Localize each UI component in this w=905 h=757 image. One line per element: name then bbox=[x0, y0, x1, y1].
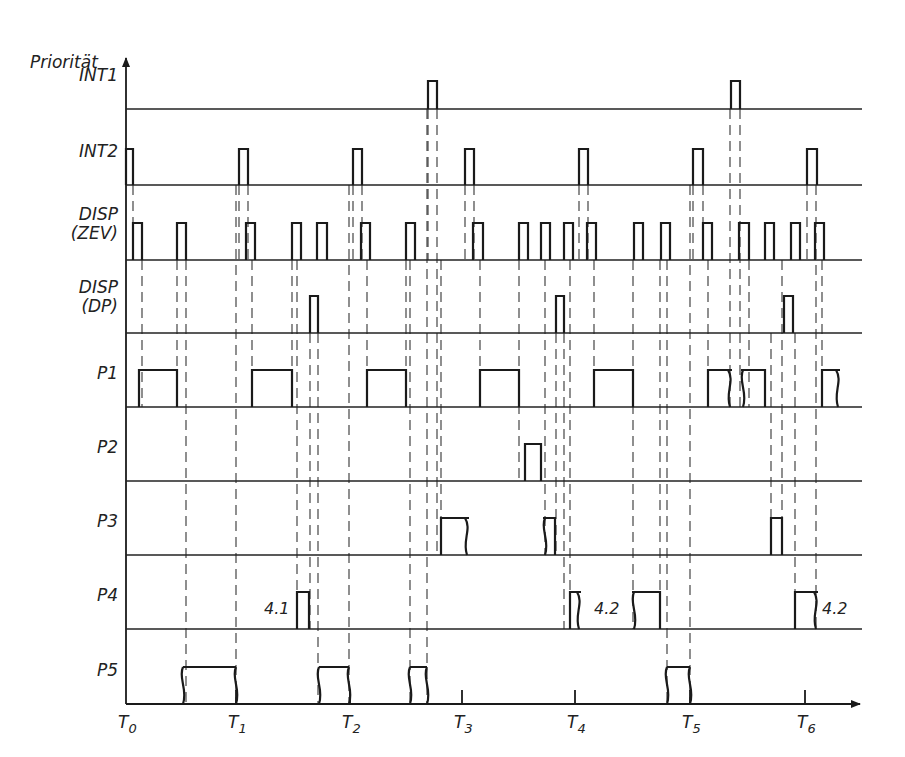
row-int2: INT2 bbox=[79, 141, 862, 185]
time-tick-label: T5 bbox=[682, 712, 701, 736]
task-pulse bbox=[318, 667, 351, 704]
row-label: INT2 bbox=[79, 141, 118, 161]
time-tick-label: T0 bbox=[118, 712, 137, 736]
time-tick-label: T4 bbox=[567, 712, 586, 736]
row-p3: P3 bbox=[97, 511, 862, 555]
task-pulse bbox=[765, 223, 774, 260]
row-label: DISP bbox=[79, 204, 119, 224]
row-int1: INT1 bbox=[79, 65, 862, 109]
task-pulse bbox=[182, 667, 238, 704]
task-pulse bbox=[252, 370, 292, 407]
task-pulse bbox=[579, 149, 588, 185]
subtask-note: 4.2 bbox=[822, 599, 847, 618]
task-pulse bbox=[771, 518, 782, 555]
priority-timing-diagram: Priorität T0T1T2T3T4T5T6 INT1INT2DISP(ZE… bbox=[0, 0, 905, 757]
task-pulse bbox=[741, 370, 765, 407]
row-label: P2 bbox=[97, 437, 118, 457]
task-pulse bbox=[632, 592, 660, 629]
task-pulse bbox=[807, 149, 817, 185]
row-p1: P1 bbox=[97, 363, 862, 407]
process-rows: INT1INT2DISP(ZEV)DISP(DP)P1P2P3P44.14.24… bbox=[71, 65, 862, 704]
row-label: P1 bbox=[97, 363, 118, 383]
task-pulse bbox=[133, 223, 142, 260]
row-label: P4 bbox=[97, 585, 118, 605]
subtask-note: 4.2 bbox=[594, 599, 619, 618]
row-p2: P2 bbox=[97, 437, 862, 481]
task-pulse bbox=[139, 370, 177, 407]
task-pulse bbox=[556, 296, 564, 333]
task-pulse bbox=[465, 149, 474, 185]
task-pulse bbox=[795, 592, 818, 629]
task-pulse bbox=[239, 149, 248, 185]
row-label: P3 bbox=[97, 511, 118, 531]
row-label: P5 bbox=[97, 660, 118, 680]
task-pulse bbox=[564, 223, 573, 260]
task-pulse bbox=[297, 592, 309, 629]
time-tick-label: T3 bbox=[454, 712, 473, 736]
task-pulse bbox=[661, 223, 670, 260]
task-pulse bbox=[310, 296, 318, 333]
task-pulse bbox=[126, 149, 133, 185]
row-p4: P44.14.24.2 bbox=[97, 585, 862, 629]
task-pulse bbox=[441, 518, 469, 555]
row-label: (ZEV) bbox=[71, 223, 118, 243]
row-label: INT1 bbox=[79, 65, 118, 85]
task-pulse bbox=[703, 223, 712, 260]
task-pulse bbox=[708, 370, 732, 407]
task-pulse bbox=[406, 223, 415, 260]
time-tick-label: T6 bbox=[797, 712, 816, 736]
task-pulse bbox=[634, 223, 643, 260]
time-tick-label: T1 bbox=[228, 712, 247, 736]
task-pulse bbox=[317, 223, 327, 260]
task-pulse bbox=[666, 667, 692, 704]
task-pulse bbox=[292, 223, 301, 260]
subtask-note: 4.1 bbox=[264, 599, 289, 618]
task-pulse bbox=[541, 223, 550, 260]
task-pulse bbox=[177, 223, 186, 260]
task-pulse bbox=[731, 81, 740, 109]
task-pulse bbox=[428, 81, 437, 109]
time-tick-label: T2 bbox=[342, 712, 361, 736]
task-pulse bbox=[693, 149, 703, 185]
task-pulse bbox=[822, 370, 840, 407]
task-pulse bbox=[480, 370, 519, 407]
task-pulse bbox=[594, 370, 633, 407]
task-pulse bbox=[791, 223, 800, 260]
task-pulse bbox=[246, 223, 255, 260]
row-label: DISP bbox=[79, 277, 119, 297]
task-pulse bbox=[409, 667, 429, 704]
task-pulse bbox=[784, 296, 793, 333]
row-disp-dp: DISP(DP) bbox=[79, 277, 862, 333]
task-pulse bbox=[367, 370, 406, 407]
row-label: (DP) bbox=[81, 296, 118, 316]
task-pulse bbox=[519, 223, 528, 260]
time-ticks: T0T1T2T3T4T5T6 bbox=[118, 690, 816, 736]
task-pulse bbox=[353, 149, 362, 185]
task-pulse bbox=[525, 444, 541, 481]
row-disp-zev: DISP(ZEV) bbox=[71, 204, 862, 260]
task-pulse bbox=[570, 592, 581, 629]
